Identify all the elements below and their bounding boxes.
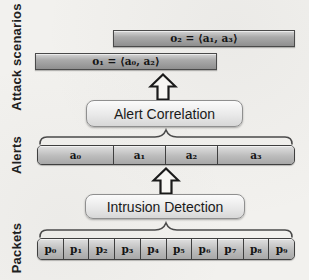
scenario-bar-o2: o₂ = ⟨a₁, a₃⟩ (113, 30, 295, 47)
packet-cell: p₆ (192, 239, 218, 259)
alert-cell: a₁ (114, 146, 166, 164)
packets-label: Packets (9, 223, 24, 274)
packet-cell-label: p₈ (250, 244, 262, 255)
packet-cell: p₄ (141, 239, 167, 259)
intrusion-detection-box: Intrusion Detection (85, 194, 245, 219)
packet-cell-label: p₃ (121, 244, 133, 255)
attack-scenarios-label: Attack scenarios (9, 3, 24, 110)
alerts-bar: a₀ a₁ a₂ a₃ (37, 145, 295, 165)
scenario-bar-o1: o₁ = ⟨a₀, a₂⟩ (35, 53, 217, 70)
up-arrow-icon (151, 167, 181, 195)
alert-cell-label: a₀ (70, 150, 81, 161)
alert-cell: a₂ (166, 146, 218, 164)
packet-cell-label: p₀ (44, 244, 56, 255)
packet-cell: p₅ (167, 239, 193, 259)
packet-cell-label: p₉ (276, 244, 288, 255)
packet-cell: p₁ (64, 239, 90, 259)
packet-cell-label: p₂ (96, 244, 108, 255)
figure-canvas: Attack scenarios Alerts Packets o₂ = ⟨a₁… (0, 0, 309, 280)
packet-cell: p₉ (269, 239, 294, 259)
over-brace-packets (37, 220, 295, 238)
alert-correlation-box-label: Alert Correlation (114, 106, 215, 122)
packet-cell: p₇ (218, 239, 244, 259)
up-arrow-icon (148, 73, 178, 101)
alert-cell: a₃ (218, 146, 294, 164)
alert-cell: a₀ (38, 146, 114, 164)
packet-cell-label: p₄ (147, 244, 159, 255)
packets-bar: p₀ p₁ p₂ p₃ p₄ p₅ p₆ p₇ p₈ p₉ (37, 238, 295, 260)
packet-cell-label: p₅ (173, 244, 185, 255)
packet-cell-label: p₆ (199, 244, 211, 255)
scenario-o1-label: o₁ = ⟨a₀, a₂⟩ (92, 56, 159, 67)
packet-cell: p₈ (244, 239, 270, 259)
packet-cell-label: p₁ (70, 244, 82, 255)
alert-correlation-box: Alert Correlation (86, 100, 243, 127)
packet-cell: p₂ (89, 239, 115, 259)
packet-cell: p₀ (38, 239, 64, 259)
alert-cell-label: a₁ (134, 150, 145, 161)
scenario-o2-label: o₂ = ⟨a₁, a₃⟩ (170, 33, 237, 44)
alerts-label: Alerts (9, 136, 24, 174)
packet-cell: p₃ (115, 239, 141, 259)
packet-cell-label: p₇ (224, 244, 236, 255)
alert-cell-label: a₂ (186, 150, 197, 161)
alert-cell-label: a₃ (250, 150, 261, 161)
intrusion-detection-box-label: Intrusion Detection (107, 199, 224, 215)
over-brace-alerts (37, 127, 295, 145)
